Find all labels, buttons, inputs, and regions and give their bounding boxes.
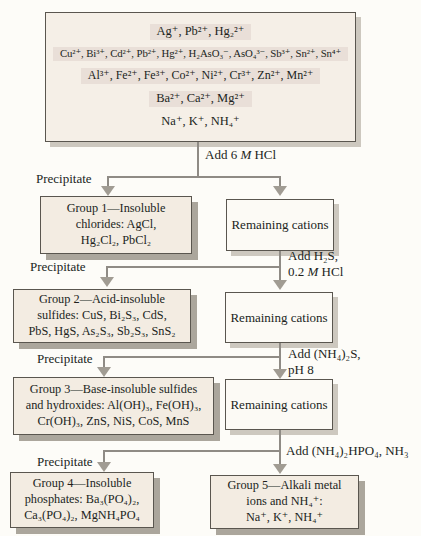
- arrow-down-icon: [273, 369, 287, 379]
- reagent2-molarity: M: [308, 264, 319, 279]
- ion-row-group4: Ba²⁺, Ca²⁺, Mg²⁺: [149, 91, 252, 107]
- qualitative-analysis-flowchart: Ag⁺, Pb²⁺, Hg₂²⁺ Cu²⁺, Bi³⁺, Cd²⁺, Pb²⁺,…: [0, 0, 421, 536]
- group3-line: and hydroxides: Al(OH)₃, Fe(OH)₃,: [26, 398, 202, 414]
- arrow-down-icon: [100, 277, 114, 287]
- group2-line: sulfides: CuS, Bi₂S₃, CdS,: [37, 308, 167, 324]
- arrow-down-icon: [97, 462, 111, 472]
- reagent-label-stage2-line2: 0.2 M HCl: [288, 264, 343, 280]
- reagent1-molarity: M: [240, 147, 251, 162]
- remaining-cations-box-3: Remaining cations: [225, 379, 333, 430]
- connector-stage4-stem: [279, 430, 281, 452]
- precipitate-label-stage2: Precipitate: [30, 259, 86, 275]
- group3-line: Group 3—Base-insoluble sulfides: [30, 382, 197, 398]
- ion-row-group3: Al³⁺, Fe²⁺, Fe³⁺, Co²⁺, Ni²⁺, Cr³⁺, Zn²⁺…: [81, 68, 320, 83]
- remaining-cations-label: Remaining cations: [231, 217, 328, 233]
- reagent-label-stage2-line1: Add H₂S,: [288, 248, 338, 264]
- connector-stage4-branch: [103, 450, 281, 452]
- group1-line: chlorides: AgCl,: [76, 217, 157, 233]
- precipitate-label-stage4: Precipitate: [37, 454, 93, 470]
- group1-line: Group 1—Insoluble: [67, 201, 166, 217]
- group4-line: phosphates: Ba₃(PO₄)₂,: [25, 492, 140, 508]
- precipitate-label-stage3: Precipitate: [37, 351, 93, 367]
- connector-stage2-left-stub: [106, 266, 108, 277]
- mixture-box: Ag⁺, Pb²⁺, Hg₂²⁺ Cu²⁺, Bi³⁺, Cd²⁺, Pb²⁺,…: [45, 12, 356, 142]
- reagent-label-stage3-line1: Add (NH₄)₂S,: [288, 346, 361, 362]
- ion-row-group2: Cu²⁺, Bi³⁺, Cd²⁺, Pb²⁺, Hg²⁺, H₂AsO₃⁻, A…: [53, 47, 348, 61]
- connector-stage3-branch: [103, 356, 281, 358]
- reagent1-pre: Add 6: [205, 147, 240, 162]
- group4-box: Group 4—Insoluble phosphates: Ba₃(PO₄)₂,…: [10, 472, 154, 528]
- group4-line: Group 4—Insoluble: [33, 476, 132, 492]
- group2-box: Group 2—Acid-insoluble sulfides: CuS, Bi…: [13, 289, 191, 343]
- group3-line: Cr(OH)₃, ZnS, NiS, CoS, MnS: [38, 414, 190, 430]
- remaining-cations-label: Remaining cations: [230, 397, 327, 413]
- group5-box: Group 5—Alkali metal ions and NH₄⁺: Na⁺,…: [210, 475, 359, 529]
- precipitate-label-stage1: Precipitate: [36, 171, 92, 187]
- remaining-cations-label: Remaining cations: [230, 310, 327, 326]
- group3-box: Group 3—Base-insoluble sulfides and hydr…: [13, 377, 214, 435]
- ion-row-group5: Na⁺, K⁺, NH₄⁺: [154, 114, 246, 130]
- arrow-down-icon: [97, 367, 111, 377]
- arrow-down-icon: [101, 186, 115, 196]
- remaining-cations-box-2: Remaining cations: [225, 292, 333, 343]
- connector-stage1-stem: [197, 142, 199, 178]
- connector-stage2-right-stub: [279, 266, 281, 281]
- group2-line: Group 2—Acid-insoluble: [39, 292, 165, 308]
- group1-box: Group 1—Insoluble chlorides: AgCl, Hg₂Cl…: [40, 196, 192, 254]
- reagent-label-stage3-line2: pH 8: [288, 362, 314, 378]
- group4-line: Ca₃(PO₄)₂, MgNH₄PO₄: [24, 508, 140, 524]
- group5-line: ions and NH₄⁺:: [246, 494, 322, 510]
- arrow-down-icon: [273, 186, 287, 196]
- arrow-down-icon: [273, 464, 287, 474]
- connector-stage1-branch: [107, 176, 281, 178]
- connector-stage3-right-stub: [279, 356, 281, 370]
- remaining-cations-box-1: Remaining cations: [226, 199, 334, 251]
- reagent-label-stage1: Add 6 M HCl: [205, 147, 276, 163]
- connector-stage4-right-stub: [279, 450, 281, 465]
- group5-line: Group 5—Alkali metal: [227, 478, 341, 494]
- arrow-down-icon: [273, 280, 287, 290]
- ion-row-group1: Ag⁺, Pb²⁺, Hg₂²⁺: [150, 24, 252, 40]
- group1-line: Hg₂Cl₂, PbCl₂: [81, 233, 151, 249]
- reagent2-pre: 0.2: [288, 264, 308, 279]
- connector-stage2-branch: [106, 266, 281, 268]
- group2-line: PbS, HgS, As₂S₃, Sb₂S₃, SnS₂: [28, 324, 175, 340]
- reagent1-post: HCl: [251, 147, 276, 162]
- reagent2-post: HCl: [318, 264, 343, 279]
- group5-line: Na⁺, K⁺, NH₄⁺: [246, 510, 323, 526]
- reagent-label-stage4: Add (NH₄)₂HPO₄, NH₃: [286, 443, 408, 459]
